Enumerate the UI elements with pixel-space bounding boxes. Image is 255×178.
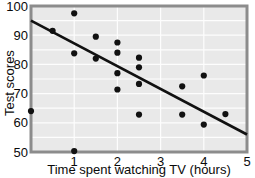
data-point — [136, 64, 142, 70]
data-point — [201, 121, 207, 127]
data-point — [136, 81, 142, 87]
y-tick-label: 60 — [14, 115, 28, 130]
y-tick-label: 50 — [14, 145, 28, 160]
x-axis-title: Time spent watching TV (hours) — [47, 162, 231, 177]
data-point — [179, 83, 185, 89]
x-tick-label: 5 — [243, 154, 250, 169]
data-point — [71, 50, 77, 56]
data-point — [50, 28, 56, 34]
y-tick-label: 90 — [14, 28, 28, 43]
y-axis-title: Test scores — [2, 50, 17, 116]
data-point — [222, 111, 228, 117]
data-point — [114, 39, 120, 45]
data-point — [179, 112, 185, 118]
data-point — [114, 50, 120, 56]
data-point — [136, 55, 142, 61]
data-point — [93, 55, 99, 61]
y-tick-label: 100 — [6, 0, 28, 14]
data-point — [114, 70, 120, 76]
data-point — [28, 108, 34, 114]
data-point — [114, 86, 120, 92]
data-point — [71, 10, 77, 16]
data-point — [201, 72, 207, 78]
data-point — [136, 112, 142, 118]
scatter-plot-figure: 5060708090100 12345 Test scores Time spe… — [0, 0, 255, 178]
data-point — [93, 34, 99, 40]
chart-canvas: 5060708090100 12345 Test scores Time spe… — [0, 0, 255, 178]
